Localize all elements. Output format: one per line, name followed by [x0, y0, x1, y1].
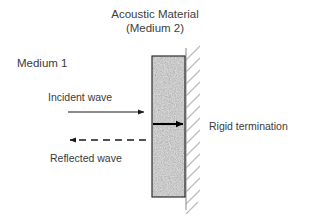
diagram-vector-layer — [0, 0, 310, 220]
acoustic-material-block — [152, 56, 185, 197]
wall-hatching — [186, 46, 200, 214]
rigid-termination-wall — [186, 46, 200, 214]
diagram-canvas: Acoustic Material (Medium 2) Medium 1 In… — [0, 0, 310, 220]
